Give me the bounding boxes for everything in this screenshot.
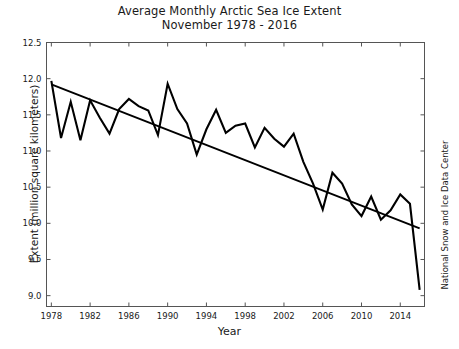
y-tick-label: 12.5: [16, 38, 42, 48]
x-tick-label: 2002: [264, 311, 304, 321]
trend-line: [51, 84, 419, 228]
y-tick-label: 11.0: [16, 146, 42, 156]
plot-area: [0, 0, 459, 349]
x-tick-label: 2010: [342, 311, 382, 321]
x-tick-label: 1994: [186, 311, 226, 321]
y-tick-label: 11.5: [16, 110, 42, 120]
chart-figure: Average Monthly Arctic Sea Ice Extent No…: [0, 0, 459, 349]
data-line-series: [51, 81, 419, 290]
x-tick-label: 1986: [109, 311, 149, 321]
y-tick-label: 12.0: [16, 74, 42, 84]
chart-credit: National Snow and Ice Data Center: [440, 125, 450, 305]
x-tick-label: 1998: [225, 311, 265, 321]
y-tick-label: 9.5: [16, 254, 42, 264]
x-tick-label: 1978: [31, 311, 71, 321]
x-tick-label: 1990: [148, 311, 188, 321]
y-tick-label: 10.5: [16, 182, 42, 192]
x-axis-label: Year: [0, 325, 459, 338]
y-tick-label: 10.0: [16, 218, 42, 228]
x-tick-label: 2014: [380, 311, 420, 321]
x-tick-label: 2006: [303, 311, 343, 321]
x-tick-label: 1982: [70, 311, 110, 321]
plot-frame: [47, 43, 425, 307]
y-tick-label: 9.0: [16, 291, 42, 301]
